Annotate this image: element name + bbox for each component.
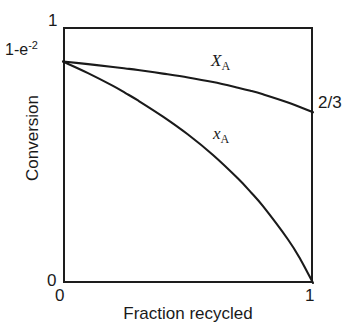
y-axis-tick-top: 1: [48, 12, 57, 29]
curve-label-XA: XA: [211, 51, 230, 74]
curve-label-xA: xA: [213, 124, 229, 147]
x-axis-title: Fraction recycled: [63, 304, 313, 324]
curve-label-XA-main: X: [211, 51, 221, 70]
curve-label-XA-sub: A: [221, 59, 230, 73]
curve-label-xA-main: x: [213, 124, 221, 143]
curve-lower-xA: [63, 62, 313, 283]
curve-layer: [63, 27, 313, 283]
y-tick-mid-base: 1-e: [5, 41, 28, 58]
x-axis-tick-left: 0: [55, 287, 64, 304]
x-axis-tick-right: 1: [305, 287, 314, 304]
right-endpoint-annotation: 2/3: [318, 93, 342, 113]
conversion-vs-fraction-recycled-chart: 1 1-e-2 0 0 1 Conversion Fraction recycl…: [0, 0, 363, 331]
curve-upper-XA: [63, 62, 313, 113]
curve-label-xA-sub: A: [221, 132, 230, 146]
y-axis-tick-1-minus-e-sq: 1-e-2: [5, 40, 38, 58]
y-axis-title: Conversion: [23, 58, 43, 218]
y-tick-mid-exponent: -2: [28, 39, 38, 51]
